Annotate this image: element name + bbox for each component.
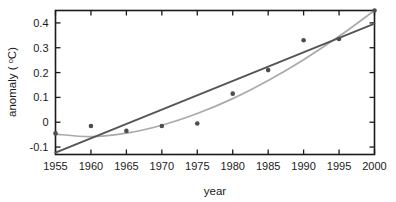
data-point-marker bbox=[337, 37, 342, 42]
data-point-marker bbox=[301, 38, 306, 43]
x-axis-title: year bbox=[204, 185, 227, 197]
chart-background bbox=[0, 0, 396, 202]
y-tick-label: 0.1 bbox=[33, 91, 48, 103]
chart-svg: 1955196019651970197519801985199019952000… bbox=[0, 0, 396, 202]
data-point-marker bbox=[266, 68, 271, 73]
data-point-marker bbox=[160, 124, 165, 129]
x-tick-label: 1990 bbox=[291, 160, 315, 172]
y-axis-title: anomaly ( oC) bbox=[6, 47, 19, 117]
x-tick-label: 1995 bbox=[327, 160, 351, 172]
y-tick-label: 0 bbox=[42, 116, 48, 128]
y-tick-label: 0.3 bbox=[33, 42, 48, 54]
x-tick-label: 1980 bbox=[220, 160, 244, 172]
data-point-marker bbox=[195, 121, 200, 126]
x-tick-label: 1960 bbox=[79, 160, 103, 172]
x-tick-label: 2000 bbox=[362, 160, 386, 172]
x-tick-label: 1955 bbox=[43, 160, 67, 172]
y-tick-label: 0.4 bbox=[33, 17, 48, 29]
y-tick-label: 0.2 bbox=[33, 67, 48, 79]
chart-figure: 1955196019651970197519801985199019952000… bbox=[0, 0, 396, 202]
x-tick-label: 1965 bbox=[114, 160, 138, 172]
data-point-marker bbox=[230, 91, 235, 96]
x-tick-label: 1985 bbox=[256, 160, 280, 172]
data-point-marker bbox=[89, 124, 94, 129]
x-tick-label: 1970 bbox=[150, 160, 174, 172]
data-point-marker bbox=[372, 8, 377, 13]
data-point-marker bbox=[124, 129, 129, 134]
x-tick-label: 1975 bbox=[185, 160, 209, 172]
y-tick-label: -0.1 bbox=[30, 141, 49, 153]
data-point-marker bbox=[53, 131, 58, 136]
